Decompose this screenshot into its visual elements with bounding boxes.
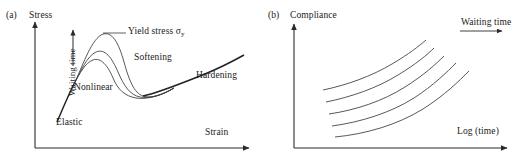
compliance-curve-3 [329, 56, 444, 114]
nonlinear-label: Nonlinear [74, 82, 113, 92]
panel-a-x-axis-label: Strain [205, 127, 228, 137]
compliance-curve-4 [332, 63, 456, 126]
panel-b: (b) Compliance Waiting time Log (time) [264, 0, 529, 163]
panel-b-x-axis-label: Log (time) [457, 126, 499, 136]
yield-stress-subscript: y [181, 30, 185, 38]
panel-a-tag: (a) [6, 10, 17, 20]
hardening-label: Hardening [196, 70, 237, 80]
compliance-curve-2 [326, 48, 434, 102]
panel-b-tag: (b) [268, 10, 279, 20]
stress-strain-curve-low [74, 59, 174, 98]
panel-b-waiting-time-label: Waiting time [461, 17, 511, 27]
panel-a-y-axis-label: Stress [29, 10, 52, 20]
panel-b-y-axis-label: Compliance [290, 10, 337, 20]
yield-stress-text: Yield stress σ [128, 26, 181, 36]
elastic-label: Elastic [56, 117, 83, 127]
yield-stress-label: Yield stress σy [128, 26, 185, 37]
panel-a: (a) Stress Strain Waiting time Yield str… [0, 0, 265, 163]
figure-root: (a) Stress Strain Waiting time Yield str… [0, 0, 529, 163]
panel-a-drawing [0, 0, 265, 163]
softening-label: Softening [134, 52, 172, 62]
compliance-curve-1 [323, 40, 426, 90]
